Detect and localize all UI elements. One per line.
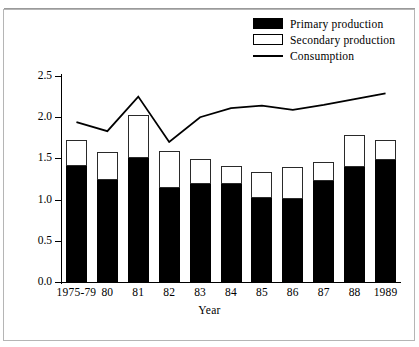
bar-segment-secondary-production	[375, 140, 396, 160]
bar-segment-primary-production	[282, 199, 303, 282]
bar-segment-secondary-production	[221, 166, 242, 184]
bar-segment-secondary-production	[251, 172, 272, 198]
legend-item-consumption: Consumption	[253, 48, 415, 63]
bar-segment-secondary-production	[97, 152, 118, 180]
y-axis-tick: 0.0	[55, 282, 61, 283]
bar-segment-primary-production	[97, 180, 118, 282]
y-axis-tick-label: 2.0	[38, 110, 52, 123]
chart-legend: Primary production Secondary production …	[253, 16, 415, 64]
bar-segment-primary-production	[313, 181, 334, 282]
bar-segment-secondary-production	[313, 162, 334, 182]
bar-segment-primary-production	[128, 158, 149, 282]
x-axis-line	[61, 282, 401, 283]
y-axis-tick-label: 1.5	[38, 151, 52, 164]
bar-segment-primary-production	[221, 184, 242, 282]
bar-segment-secondary-production	[344, 135, 365, 166]
legend-label-primary-production: Primary production	[290, 18, 383, 30]
plot-area	[61, 76, 399, 282]
legend-item-secondary-production: Secondary production	[253, 32, 415, 47]
y-axis-tick-label: 1.0	[38, 193, 52, 206]
legend-swatch-consumption-icon	[253, 50, 283, 61]
chart-figure: Primary production Secondary production …	[0, 0, 419, 347]
bar-segment-primary-production	[190, 184, 211, 282]
bar-segment-primary-production	[251, 198, 272, 282]
bar-segment-secondary-production	[66, 140, 87, 166]
y-axis-tick-label: 0.5	[38, 234, 52, 247]
legend-label-consumption: Consumption	[290, 50, 354, 62]
y-axis-tick-label: 2.5	[38, 69, 52, 82]
bar-segment-primary-production	[159, 188, 180, 282]
legend-item-primary-production: Primary production	[253, 16, 415, 31]
legend-label-secondary-production: Secondary production	[290, 34, 395, 46]
bar-segment-primary-production	[375, 160, 396, 282]
legend-swatch-secondary-production-icon	[253, 34, 283, 45]
x-axis-tick-label: 1989	[356, 286, 416, 299]
bar-segment-secondary-production	[282, 167, 303, 199]
x-axis-title: Year	[0, 304, 419, 316]
bar-segment-primary-production	[344, 167, 365, 282]
bar-segment-secondary-production	[159, 151, 180, 188]
legend-swatch-primary-production-icon	[253, 18, 283, 29]
bar-segment-secondary-production	[190, 159, 211, 184]
bar-segment-primary-production	[66, 166, 87, 282]
bar-segment-secondary-production	[128, 115, 149, 159]
